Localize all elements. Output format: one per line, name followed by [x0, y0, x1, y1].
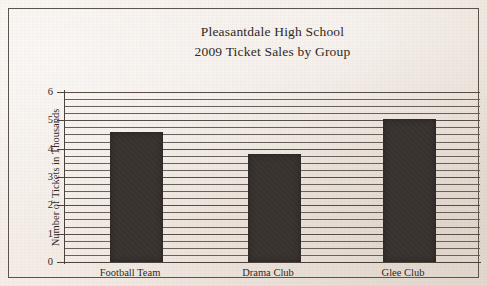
x-axis-line	[64, 262, 481, 263]
x-axis-label-drama-club: Drama Club	[198, 267, 338, 278]
x-axis-label-football-team: Football Team	[60, 267, 200, 278]
chart-title-line-2: 2009 Ticket Sales by Group	[65, 42, 480, 62]
x-axis-label-glee-club: Glee Club	[333, 267, 473, 278]
chart-page: Pleasantdale High School 2009 Ticket Sal…	[0, 0, 487, 286]
bar-drama-club	[248, 154, 301, 262]
bar-glee-club	[383, 119, 436, 262]
bar-football-team	[110, 132, 163, 262]
plot-area	[65, 92, 480, 262]
y-axis-title: Number of Tickets in Thousands	[50, 83, 61, 273]
chart-frame: Pleasantdale High School 2009 Ticket Sal…	[8, 8, 479, 278]
chart-title-line-1: Pleasantdale High School	[65, 22, 480, 42]
chart-title: Pleasantdale High School 2009 Ticket Sal…	[65, 22, 480, 62]
